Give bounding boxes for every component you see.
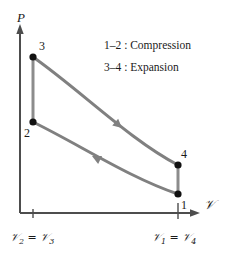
tick-label-v1-v4: 𝒱1 = 𝒱4 <box>152 231 196 246</box>
x-axis-arrowhead <box>190 209 200 216</box>
tick-label-v2-v3-text: 𝒱2 = 𝒱3 <box>10 231 54 246</box>
state-label-1: 1 <box>181 198 187 212</box>
y-axis-arrowhead <box>16 24 23 34</box>
process-3-4-expansion <box>33 57 178 165</box>
state-label-2: 2 <box>24 126 30 140</box>
x-axis-label: 𝒱 <box>204 197 219 212</box>
y-axis <box>16 24 23 213</box>
state-label-4: 4 <box>181 147 187 161</box>
legend-line-expansion: 3–4 : Expansion <box>104 61 179 74</box>
pv-diagram-figure: 3 2 4 1 P 𝒱 𝒱2 = 𝒱3 𝒱1 = 𝒱4 1–2 : Compre… <box>0 0 226 258</box>
state-label-3: 3 <box>39 39 45 53</box>
state-point-2 <box>29 118 36 125</box>
pv-diagram-canvas: 3 2 4 1 P 𝒱 𝒱2 = 𝒱3 𝒱1 = 𝒱4 1–2 : Compre… <box>0 0 226 258</box>
curve-1-2 <box>33 122 178 194</box>
x-axis <box>20 209 200 216</box>
process-1-2-compression <box>33 122 178 194</box>
state-point-4 <box>174 161 181 168</box>
legend-line-compression: 1–2 : Compression <box>104 39 191 52</box>
curve-3-4 <box>33 57 178 165</box>
y-axis-label: P <box>16 10 25 25</box>
state-point-3 <box>29 53 36 60</box>
tick-label-v1-v4-text: 𝒱1 = 𝒱4 <box>152 231 196 246</box>
state-point-1 <box>174 190 181 197</box>
tick-label-v2-v3: 𝒱2 = 𝒱3 <box>10 231 54 246</box>
